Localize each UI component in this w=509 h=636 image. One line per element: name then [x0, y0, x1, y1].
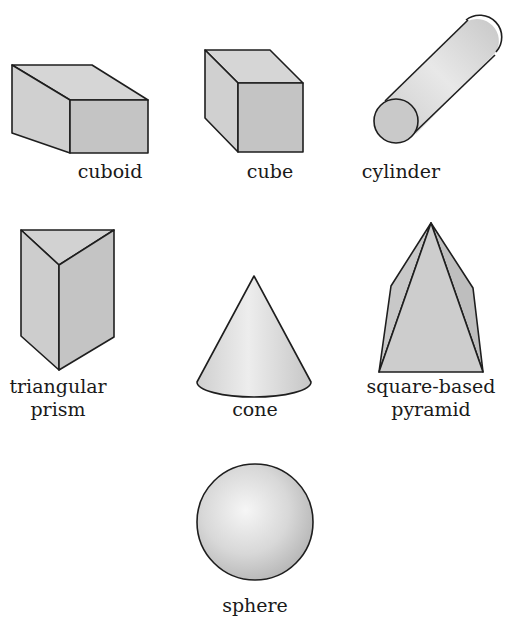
square-based-pyramid-label-line2: pyramid: [366, 398, 496, 420]
cube-shape: [205, 50, 303, 152]
triangular-prism-label-line1: triangular: [8, 375, 108, 397]
cone-label: cone: [220, 398, 290, 420]
cube-label: cube: [240, 160, 300, 182]
cuboid-shape: [12, 65, 148, 153]
cuboid-label: cuboid: [70, 160, 150, 182]
square-based-pyramid-label-line1: square-based: [366, 375, 496, 397]
triangular-prism-shape: [21, 230, 114, 370]
square-based-pyramid-shape: [379, 223, 483, 372]
cylinder-shape: [374, 15, 502, 143]
sphere-shape: [197, 464, 313, 580]
cylinder-label: cylinder: [356, 160, 446, 182]
shapes-diagram: [0, 0, 509, 636]
triangular-prism-label-line2: prism: [8, 398, 108, 420]
sphere-label: sphere: [215, 594, 295, 616]
cone-shape: [197, 276, 311, 397]
